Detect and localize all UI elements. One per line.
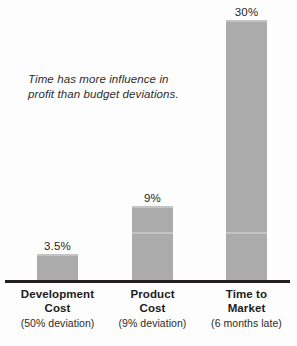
x-axis-category-labels: Development Cost (50% deviation) Product… bbox=[0, 287, 297, 342]
bar-group-product-cost: 9% bbox=[132, 206, 173, 282]
bar-time-to-market[interactable] bbox=[226, 20, 267, 282]
bar-value-label-time-to-market: 30% bbox=[235, 6, 259, 18]
bar-product-cost[interactable] bbox=[132, 206, 173, 282]
bar-group-development-cost: 3.5% bbox=[37, 254, 78, 282]
scan-line-artifact bbox=[132, 232, 173, 234]
bar-value-label-product-cost: 9% bbox=[144, 192, 161, 204]
scan-line-artifact bbox=[226, 232, 267, 234]
x-axis-baseline bbox=[5, 280, 290, 283]
bar-value-label-development-cost: 3.5% bbox=[44, 240, 71, 252]
category-sublabel: (6 months late) bbox=[189, 316, 297, 330]
category-label-time-to-market: Time to Market (6 months late) bbox=[189, 287, 297, 330]
bar-group-time-to-market: 30% bbox=[226, 20, 267, 282]
category-name-line-2: Market bbox=[189, 301, 297, 315]
plot-area: 3.5% 9% 30% bbox=[0, 0, 297, 282]
bar-chart: Time has more influence in profit than b… bbox=[0, 0, 297, 346]
bar-development-cost[interactable] bbox=[37, 254, 78, 282]
category-name-line-1: Time to bbox=[189, 287, 297, 301]
